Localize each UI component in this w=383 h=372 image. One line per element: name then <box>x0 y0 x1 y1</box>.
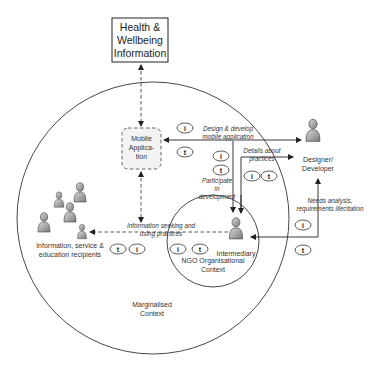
app-line-2: Applica- <box>129 144 155 152</box>
designer-label-1: Designer/ <box>303 156 333 164</box>
badge-t-needs: t <box>295 245 311 255</box>
marginalised-label-2: Context <box>140 310 164 317</box>
box-line-2: Wellbeing <box>117 34 163 46</box>
badge-i-needs: i <box>295 220 311 230</box>
designer-label-2: Developer <box>302 165 335 173</box>
info-seeking-label-1: Information seeking and <box>127 222 196 230</box>
intermediary-person-icon[interactable] <box>229 218 242 239</box>
details-label-1: Details about <box>243 147 281 154</box>
participate-label-3: development <box>199 193 236 201</box>
mobile-application-box[interactable]: Mobile Applica- tion <box>122 128 161 169</box>
diagram-canvas: Health & Wellbeing Information Mobile Ap… <box>0 0 383 372</box>
needs-label-2: requirements illecitation <box>296 205 364 213</box>
badge-t-ngo: t <box>192 244 208 254</box>
app-line-3: tion <box>136 153 147 160</box>
design-develop-label-2: mobile application <box>202 133 254 141</box>
designer-person-icon[interactable] <box>306 119 320 141</box>
app-line-1: Mobile <box>131 135 152 142</box>
badge-i-recipients: i <box>129 244 145 254</box>
svg-text:i: i <box>220 153 222 160</box>
needs-label-1: Needs analysis, <box>307 197 352 205</box>
participate-label-1: Participate <box>202 177 233 185</box>
svg-text:i: i <box>184 125 186 132</box>
recipients-label-2: education recipients <box>39 251 102 259</box>
recipients-group-icon[interactable] <box>38 183 87 239</box>
badge-i-participate: i <box>213 151 229 161</box>
participate-label-2: in <box>215 185 220 192</box>
badge-i-design: i <box>177 123 193 133</box>
info-seeking-label-2: using practices <box>140 230 183 238</box>
badge-t-details: t <box>261 171 277 181</box>
svg-text:i: i <box>251 173 253 180</box>
badge-i-details: i <box>244 171 260 181</box>
badge-i-ngo: i <box>170 244 186 254</box>
svg-text:i: i <box>136 246 138 253</box>
design-develop-label-1: Design & develop <box>203 125 254 133</box>
ngo-context-circle <box>167 195 259 287</box>
badge-t-participate: t <box>213 165 229 175</box>
svg-text:i: i <box>302 222 304 229</box>
svg-text:i: i <box>177 246 179 253</box>
box-line-1: Health & <box>120 21 160 33</box>
recipients-label-1: Information, service & <box>36 242 104 249</box>
box-line-3: Information <box>114 47 167 59</box>
badge-t-design: t <box>177 147 193 157</box>
ngo-label-2: Context <box>201 266 225 273</box>
health-wellbeing-info-box[interactable]: Health & Wellbeing Information <box>112 18 168 62</box>
marginalised-label-1: Marginalised <box>132 301 172 309</box>
ngo-label-1: NGO Organisational <box>181 257 244 265</box>
details-label-2: practices <box>248 155 275 163</box>
badge-t-recipients: t <box>110 244 126 254</box>
